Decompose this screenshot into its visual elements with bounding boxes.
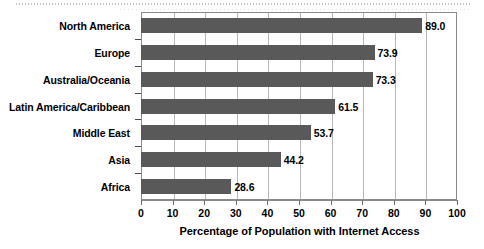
bar — [141, 152, 281, 167]
x-axis-tick — [362, 200, 363, 205]
x-axis-tick-label: 10 — [167, 208, 179, 219]
x-axis-tick-label: 30 — [230, 208, 242, 219]
bar-value-label: 53.7 — [314, 128, 334, 139]
x-axis-tick — [457, 200, 458, 205]
category-label: Europe — [94, 48, 130, 59]
x-axis-tick-label: 20 — [198, 208, 210, 219]
bar-value-label: 73.3 — [376, 75, 396, 86]
bar — [141, 18, 422, 33]
category-label: Asia — [108, 155, 130, 166]
category-axis-labels: North AmericaEuropeAustralia/OceaniaLati… — [0, 12, 136, 200]
y-axis-tick — [135, 93, 141, 94]
x-axis-tick — [267, 200, 268, 205]
y-axis-tick — [135, 119, 141, 120]
bar-value-label: 61.5 — [338, 102, 358, 113]
scan-artifact-line-secondary — [120, 9, 472, 10]
x-axis-tick-label: 90 — [420, 208, 432, 219]
x-axis-tick-label: 60 — [325, 208, 337, 219]
scan-artifact-line — [16, 3, 472, 5]
bar — [141, 125, 311, 140]
x-axis-tick-label: 80 — [388, 208, 400, 219]
x-axis-tick-label: 100 — [448, 208, 466, 219]
x-axis-tick — [394, 200, 395, 205]
x-axis-tick — [236, 200, 237, 205]
bar-value-label: 28.6 — [234, 182, 254, 193]
bar-value-label: 73.9 — [378, 48, 398, 59]
bar-value-label: 89.0 — [425, 21, 445, 32]
bar-chart: 89.073.973.361.553.744.228.6 North Ameri… — [0, 0, 484, 249]
category-label: North America — [59, 21, 130, 32]
y-axis-tick — [135, 146, 141, 147]
category-label: Middle East — [73, 128, 130, 139]
bars-layer — [141, 12, 457, 200]
y-axis-tick — [135, 66, 141, 67]
category-label: Africa — [101, 182, 130, 193]
bar — [141, 179, 231, 194]
x-axis-tick-label: 40 — [262, 208, 274, 219]
x-axis-tick — [299, 200, 300, 205]
y-axis-tick — [135, 39, 141, 40]
category-label: Latin America/Caribbean — [9, 102, 130, 113]
x-axis-tick-label: 50 — [293, 208, 305, 219]
bar-value-label: 44.2 — [284, 155, 304, 166]
bar — [141, 72, 373, 87]
x-axis-tick — [204, 200, 205, 205]
category-label: Australia/Oceania — [43, 75, 130, 86]
x-axis-title: Percentage of Population with Internet A… — [141, 226, 458, 237]
y-axis-tick — [135, 173, 141, 174]
x-axis-tick — [331, 200, 332, 205]
x-axis-tick — [141, 200, 142, 205]
x-axis-tick — [425, 200, 426, 205]
x-axis-tick-label: 0 — [138, 208, 144, 219]
bar — [141, 45, 375, 60]
bar — [141, 99, 335, 114]
x-axis-tick — [173, 200, 174, 205]
x-axis-tick-label: 70 — [356, 208, 368, 219]
